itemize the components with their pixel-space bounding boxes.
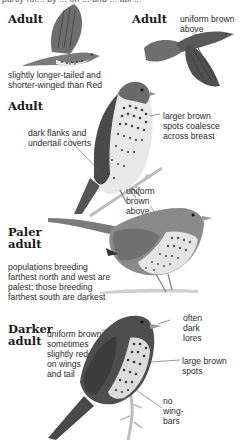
bird-illustration-flight-left: [12, 2, 112, 68]
figure-heading-adult-perched: Adult: [8, 100, 43, 112]
figure-note: larger brown spots coalesce across breas…: [163, 111, 220, 141]
bird-illustration-paler-adult: [48, 200, 218, 300]
bird-illustration-darker-adult: [44, 312, 184, 440]
figure-note: often dark lores: [183, 313, 202, 343]
figure-heading-paler-adult: Paler adult: [8, 226, 42, 250]
figure-note: large brown spots: [182, 356, 227, 376]
figure-heading-adult-flight-right: Adult: [132, 13, 167, 25]
